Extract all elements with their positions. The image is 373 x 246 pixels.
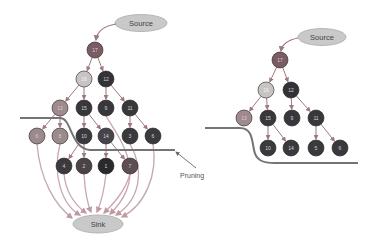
node-label: 5: [315, 145, 318, 151]
sink-node: Sink: [73, 215, 123, 233]
edge: [69, 143, 80, 159]
node-15: 15: [260, 110, 276, 126]
node-8: 8: [52, 128, 68, 144]
node-label: 3: [129, 133, 132, 139]
node-label: 13: [57, 105, 63, 111]
source-node: Source: [298, 29, 346, 46]
node-11: 11: [308, 110, 324, 126]
node-label: 6: [339, 145, 342, 151]
edge: [43, 114, 55, 129]
node-label: 12: [103, 76, 109, 82]
node-10: 10: [76, 128, 92, 144]
node-2: 2: [76, 158, 92, 174]
edge: [273, 124, 286, 141]
node-label: 14: [103, 133, 109, 139]
node-label: 17: [277, 57, 283, 63]
node-label: 13: [241, 115, 247, 121]
node-label: 11: [313, 115, 318, 121]
node-label: 7: [129, 163, 132, 169]
node-label: 9: [291, 115, 294, 121]
node-16: 16: [258, 82, 274, 98]
node-12: 12: [98, 71, 114, 87]
source-node: Source: [115, 15, 167, 32]
node-14: 14: [98, 128, 114, 144]
pruning-pointer: [176, 152, 196, 168]
edge: [111, 85, 124, 101]
node-13: 13: [236, 110, 252, 126]
node-label: 10: [265, 145, 271, 151]
node-label: 1: [105, 163, 108, 169]
tree-nodes: 1716121315911681014364217: [29, 42, 161, 174]
node-17: 17: [272, 52, 288, 68]
source-arrow: [281, 38, 298, 51]
node-1: 1: [98, 158, 114, 174]
node-label: 15: [81, 105, 87, 111]
edge: [283, 68, 288, 82]
sink-label: Sink: [91, 220, 106, 229]
node-16: 16: [76, 71, 92, 87]
node-label: 4: [63, 163, 66, 169]
source-label: Source: [129, 19, 153, 28]
edge: [270, 67, 277, 82]
edge: [267, 98, 268, 109]
node-17: 17: [87, 42, 103, 58]
node-label: 14: [288, 145, 294, 151]
node-label: 6: [152, 133, 155, 139]
node-14: 14: [283, 140, 299, 156]
node-label: 16: [81, 76, 87, 82]
node-label: 9: [105, 105, 108, 111]
node-label: 12: [288, 87, 294, 93]
node-7: 7: [122, 158, 138, 174]
node-6: 6: [332, 140, 348, 156]
node-9: 9: [284, 110, 300, 126]
node-3: 3: [122, 128, 138, 144]
node-label: 15: [265, 115, 271, 121]
node-11: 11: [122, 100, 138, 116]
node-9: 9: [98, 100, 114, 116]
pruning-label: Pruning: [180, 172, 204, 180]
node-13: 13: [52, 100, 68, 116]
source-label: Source: [310, 33, 334, 42]
node-12: 12: [283, 82, 299, 98]
node-10: 10: [260, 140, 276, 156]
node-label: 11: [127, 105, 132, 111]
node-label: 17: [92, 47, 98, 53]
node-label: 8: [59, 133, 62, 139]
node-label: 2: [83, 163, 86, 169]
node-5: 5: [308, 140, 324, 156]
edge: [296, 96, 310, 111]
pruned-graph: 1716121315911101456 Source: [205, 29, 358, 164]
node-6: 6: [29, 128, 45, 144]
node-6: 6: [145, 128, 161, 144]
pruning-diagram: Pruning 1716121315911681014364217 Source…: [0, 0, 373, 246]
source-arrow: [96, 24, 116, 40]
tree-edges: [250, 67, 335, 141]
edge: [66, 85, 79, 101]
edge: [89, 114, 100, 129]
node-4: 4: [56, 158, 72, 174]
edge: [321, 124, 334, 141]
node-label: 6: [36, 133, 39, 139]
edge: [98, 57, 103, 70]
node-label: 10: [81, 133, 87, 139]
node-label: 16: [263, 87, 269, 93]
edge: [87, 57, 92, 70]
node-15: 15: [76, 100, 92, 116]
full-graph: Pruning 1716121315911681014364217 Source…: [20, 15, 204, 234]
edge: [250, 96, 261, 111]
edge: [135, 114, 147, 129]
